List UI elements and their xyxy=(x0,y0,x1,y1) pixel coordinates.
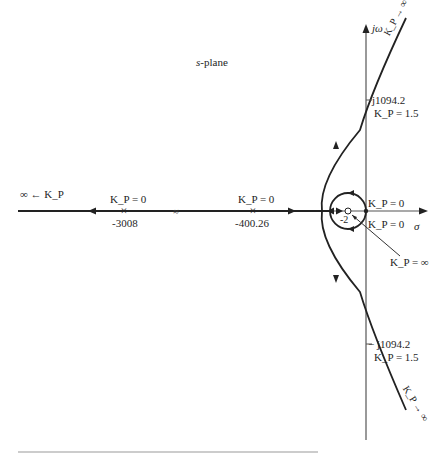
branch-arrow-up-icon xyxy=(333,141,339,149)
pole-400-value: -400.26 xyxy=(235,217,269,229)
branch-arrow-down-icon xyxy=(333,275,339,283)
pole-3008-value: -3008 xyxy=(112,217,138,229)
pole-400-marker: × xyxy=(250,204,257,218)
arrow-left-icon xyxy=(88,208,96,215)
upper-crossing-value: j1094.2 xyxy=(372,94,405,106)
circle-arrow-top-icon xyxy=(348,190,354,196)
origin-pole-gain-upper: K_P = 0 xyxy=(368,197,404,209)
axis-break-mark: ≈ xyxy=(173,206,179,217)
pole-400-gain: K_P = 0 xyxy=(238,193,274,205)
lower-crossing-gain: K_P = 1.5 xyxy=(374,351,419,363)
zero-value: -2 xyxy=(340,214,348,226)
circle-arrow-bottom-icon xyxy=(348,226,354,232)
pole-3008-gain: K_P = 0 xyxy=(110,193,146,205)
s-plane-title: ss-plane-plane xyxy=(196,56,228,68)
origin-pole-marker xyxy=(364,209,368,213)
pole-3008-marker: × xyxy=(121,204,128,218)
arrow-right-icon xyxy=(288,208,296,215)
left-asymptote-label: ∞ ← K_P xyxy=(20,188,64,200)
origin-pole-gain-lower: K_P = 0 xyxy=(368,218,404,230)
imag-axis-arrow-icon xyxy=(363,24,370,33)
zero-gain-label: K_P = ∞ xyxy=(390,256,429,268)
lower-crossing-value: − j1094.2 xyxy=(368,338,410,350)
upper-crossing-gain: K_P = 1.5 xyxy=(374,107,419,119)
real-axis-arrow-icon xyxy=(419,208,428,215)
real-axis-label: σ xyxy=(414,220,419,232)
